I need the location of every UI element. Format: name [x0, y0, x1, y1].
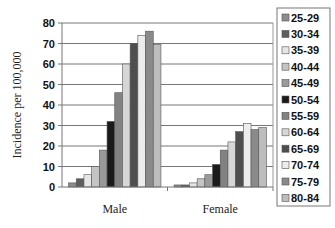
bar-male-80-84 — [153, 45, 161, 187]
y-tick-label: 30 — [43, 120, 55, 132]
bar-male-75-79 — [146, 31, 154, 187]
category-label: Male — [102, 202, 127, 216]
legend-label: 65-69 — [291, 143, 319, 155]
bar-male-65-69 — [130, 44, 138, 188]
bar-male-40-44 — [92, 167, 100, 188]
bar-male-70-74 — [138, 35, 146, 187]
bar-male-50-54 — [107, 121, 115, 187]
legend-label: 45-49 — [291, 77, 319, 89]
legend-swatch — [282, 129, 289, 136]
category-labels: MaleFemale — [102, 202, 237, 216]
legend-swatch — [282, 30, 289, 37]
legend-label: 70-74 — [291, 159, 320, 171]
y-tick-label: 10 — [43, 161, 55, 173]
y-tick-label: 0 — [49, 181, 55, 193]
bar-female-40-44 — [197, 179, 205, 187]
y-tick-label: 50 — [43, 79, 55, 91]
y-tick-label: 80 — [43, 17, 55, 29]
y-tick-labels: 01020304050607080 — [43, 17, 55, 193]
legend-label: 75-79 — [291, 176, 319, 188]
legend-label: 30-34 — [291, 28, 320, 40]
category-label: Female — [203, 202, 238, 216]
legend-swatch — [282, 14, 289, 21]
y-tick-label: 20 — [43, 140, 55, 152]
bar-female-75-79 — [251, 130, 259, 187]
bar-female-50-54 — [213, 164, 221, 187]
legend-label: 50-54 — [291, 94, 320, 106]
bar-female-65-69 — [236, 132, 244, 187]
bar-male-45-49 — [99, 150, 107, 187]
legend-label: 25-29 — [291, 12, 319, 24]
legend-label: 80-84 — [291, 192, 320, 204]
legend-label: 35-39 — [291, 44, 319, 56]
legend-swatch — [282, 47, 289, 54]
bar-female-80-84 — [259, 128, 267, 187]
bar-male-25-29 — [69, 183, 77, 187]
y-tick-label: 70 — [43, 38, 55, 50]
y-tick-label: 60 — [43, 58, 55, 70]
bar-female-70-74 — [243, 123, 251, 187]
legend-swatch — [282, 112, 289, 119]
bar-female-45-49 — [205, 175, 213, 187]
legend-swatch — [282, 162, 289, 169]
y-axis-label: Incidence per 100,000 — [10, 52, 24, 159]
bar-male-55-59 — [115, 93, 123, 187]
y-tick-label: 40 — [43, 99, 55, 111]
legend-label: 55-59 — [291, 110, 319, 122]
bar-male-35-39 — [84, 175, 92, 187]
legend-swatch — [282, 194, 289, 201]
legend: 25-2930-3435-3940-4445-4950-5455-5960-64… — [277, 8, 330, 206]
legend-label: 60-64 — [291, 126, 320, 138]
bar-female-55-59 — [220, 150, 228, 187]
bars — [69, 31, 267, 187]
bar-male-30-34 — [76, 179, 84, 187]
legend-label: 40-44 — [291, 61, 320, 73]
bar-female-35-39 — [189, 183, 197, 187]
legend-swatch — [282, 63, 289, 70]
legend-swatch — [282, 96, 289, 103]
incidence-bar-chart: 01020304050607080 Incidence per 100,000 … — [0, 0, 335, 228]
bar-female-60-64 — [228, 142, 236, 187]
legend-swatch — [282, 178, 289, 185]
legend-swatch — [282, 145, 289, 152]
legend-swatch — [282, 80, 289, 87]
bar-male-60-64 — [122, 64, 130, 187]
